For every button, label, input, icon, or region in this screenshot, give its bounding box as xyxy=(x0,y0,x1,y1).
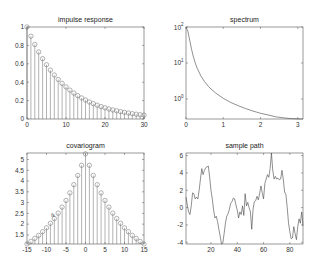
y-tick-label: 2 xyxy=(179,187,183,194)
subplot-sample-path: sample path 20406080-4-20246 xyxy=(177,142,303,253)
chart-title: sample path xyxy=(225,142,263,150)
subplot-spectrum: spectrum 0123100101102 xyxy=(174,16,303,128)
x-tick-label: 40 xyxy=(234,246,242,253)
x-tick-label: 1 xyxy=(221,121,225,128)
x-tick-label: 0 xyxy=(84,246,88,253)
data-line xyxy=(186,153,303,244)
x-tick-label: -5 xyxy=(63,246,69,253)
y-tick-label: -4 xyxy=(177,239,183,246)
x-tick-label: 20 xyxy=(207,246,215,253)
y-tick-label: 3 xyxy=(20,199,24,206)
x-tick-label: 10 xyxy=(121,246,129,253)
y-tick-label: 6 xyxy=(179,152,183,159)
x-tick-label: 30 xyxy=(140,121,148,128)
y-tick-label: 0.6 xyxy=(15,60,24,67)
plot-area xyxy=(186,153,303,244)
x-tick-label: 15 xyxy=(140,246,148,253)
annotation: fs xyxy=(51,213,55,218)
plot-area xyxy=(186,27,303,119)
y-tick-label: 0.8 xyxy=(15,42,24,49)
x-tick-label: 60 xyxy=(260,246,268,253)
subplot-impulse-response: impulse response 010203000.20.40.60.81 xyxy=(15,16,148,128)
y-tick-label: 2.5 xyxy=(15,210,24,217)
y-tick-exponent: 2 xyxy=(181,22,184,27)
y-tick-exponent: 1 xyxy=(181,58,184,63)
y-tick-label: 3.5 xyxy=(15,188,24,195)
x-tick-label: -10 xyxy=(42,246,52,253)
subplot-covariogram: covariogram -15-10-50510151.522.533.544.… xyxy=(15,142,148,253)
y-tick-label: 0 xyxy=(20,115,24,122)
y-tick-label: 4 xyxy=(179,169,183,176)
y-tick-label: 0.2 xyxy=(15,97,24,104)
y-tick-label: 1 xyxy=(20,23,24,30)
figure: impulse response 010203000.20.40.60.81 s… xyxy=(0,0,323,268)
y-tick-label: 5 xyxy=(20,156,24,163)
y-tick-label: -2 xyxy=(177,221,183,228)
chart-title: impulse response xyxy=(58,16,113,24)
x-tick-label: 3 xyxy=(296,121,300,128)
x-tick-label: 80 xyxy=(286,246,294,253)
x-tick-label: 2 xyxy=(259,121,263,128)
data-line xyxy=(186,27,303,119)
chart-title: covariogram xyxy=(66,142,105,150)
y-tick-label: 4 xyxy=(20,177,24,184)
x-tick-label: 20 xyxy=(101,121,109,128)
x-tick-label: 5 xyxy=(103,246,107,253)
x-tick-label: 10 xyxy=(62,121,70,128)
y-tick-label: 1.5 xyxy=(15,231,24,238)
y-tick-label: 0 xyxy=(179,204,183,211)
x-tick-label: 0 xyxy=(184,121,188,128)
y-tick-label: 0.4 xyxy=(15,79,24,86)
y-tick-exponent: 0 xyxy=(181,94,184,99)
y-tick-label: 2 xyxy=(20,220,24,227)
x-tick-label: -15 xyxy=(22,246,32,253)
x-tick-label: 0 xyxy=(25,121,29,128)
chart-title: spectrum xyxy=(230,16,259,24)
y-tick-label: 4.5 xyxy=(15,167,24,174)
